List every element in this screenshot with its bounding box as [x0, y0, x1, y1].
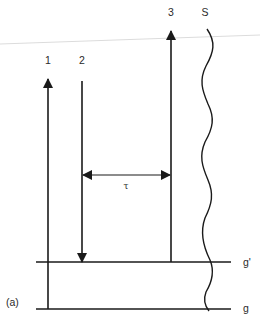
- transition-3-label: 3: [168, 6, 174, 18]
- energy-level-diagram: 1 2 3 S τ g' g (a): [0, 0, 260, 324]
- level-g-prime-label: g': [243, 256, 251, 268]
- transition-1-label: 1: [45, 54, 51, 66]
- transition-2-label: 2: [79, 54, 85, 66]
- continuum-wavy-line: [202, 29, 213, 311]
- panel-label: (a): [6, 296, 19, 308]
- continuum-label: S: [201, 6, 208, 18]
- delay-label: τ: [124, 181, 129, 191]
- level-g-label: g: [243, 302, 249, 314]
- scan-artifact-line: [0, 35, 260, 44]
